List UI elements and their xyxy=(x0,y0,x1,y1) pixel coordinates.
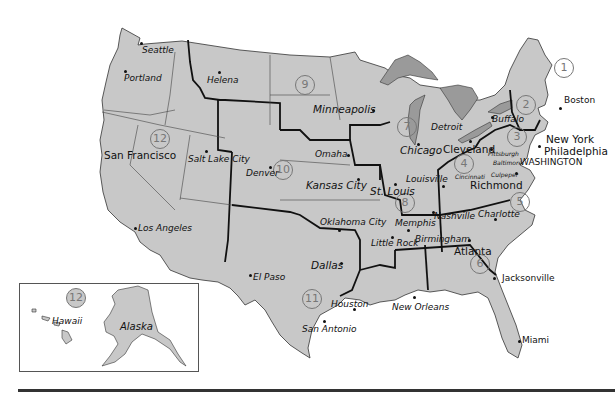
label-detroit: Detroit xyxy=(431,123,462,132)
city-dot xyxy=(538,145,541,148)
label-helena: Helena xyxy=(207,76,239,85)
district-12-marker: 12 xyxy=(150,129,170,149)
label-los-angeles: Los Angeles xyxy=(138,224,192,233)
label-minneapolis: Minneapolis xyxy=(313,104,376,115)
label-boston: Boston xyxy=(564,96,595,105)
district-3-marker: 3 xyxy=(507,127,527,147)
label-nashville: Nashville xyxy=(434,212,475,221)
city-dot xyxy=(218,71,221,74)
label-salt-lake-city: Salt Lake City xyxy=(188,155,250,164)
label-new-york: New York xyxy=(546,134,594,145)
district-1-marker: 1 xyxy=(554,58,574,78)
city-dot xyxy=(323,320,326,323)
label-denver: Denver xyxy=(246,169,279,178)
city-dot xyxy=(407,229,410,232)
district-9-marker: 9 xyxy=(295,75,315,95)
city-dot xyxy=(134,227,137,230)
label-hawaii: Hawaii xyxy=(52,317,82,326)
label-omaha: Omaha xyxy=(315,150,348,159)
label-kansas-city: Kansas City xyxy=(306,180,367,191)
label-washington: WASHINGTON xyxy=(520,158,582,167)
label-oklahoma-city: Oklahoma City xyxy=(320,218,386,227)
bottom-rule xyxy=(18,389,615,392)
label-el-paso: El Paso xyxy=(253,273,285,282)
label-san-francisco: San Francisco xyxy=(104,150,176,161)
label-memphis: Memphis xyxy=(395,219,436,228)
label-charlotte: Charlotte xyxy=(478,210,520,219)
district-2-marker: 2 xyxy=(516,95,536,115)
label-miami: Miami xyxy=(522,336,549,345)
label-san-antonio: San Antonio xyxy=(302,325,356,334)
district-6-marker: 6 xyxy=(470,254,490,274)
label-alaska: Alaska xyxy=(120,322,153,332)
label-richmond: Richmond xyxy=(470,180,523,191)
label-little-rock: Little Rock xyxy=(371,239,418,248)
city-dot xyxy=(493,277,496,280)
city-dot xyxy=(559,107,562,110)
label-st-louis: St. Louis xyxy=(370,186,415,197)
label-chicago: Chicago xyxy=(400,145,442,156)
label-seattle: Seattle xyxy=(142,46,174,55)
label-baltimore: Baltimore xyxy=(493,160,522,166)
hawaii-islands xyxy=(32,309,72,344)
label-houston: Houston xyxy=(331,300,368,309)
city-dot xyxy=(249,274,252,277)
district-12-marker-inset: 12 xyxy=(66,288,86,308)
city-dot xyxy=(205,150,208,153)
label-buffalo: Buffalo xyxy=(492,115,524,124)
label-louisville: Louisville xyxy=(406,175,448,184)
city-dot xyxy=(413,296,416,299)
city-dot xyxy=(518,340,521,343)
district-11-marker: 11 xyxy=(302,289,322,309)
label-culpeper: Culpeper xyxy=(491,172,518,178)
label-atlanta: Atlanta xyxy=(454,246,492,257)
label-dallas: Dallas xyxy=(311,260,343,271)
district-4-marker: 4 xyxy=(454,154,474,174)
label-philadelphia: Philadelphia xyxy=(544,146,608,157)
label-portland: Portland xyxy=(124,74,162,83)
label-birmingham: Birmingham xyxy=(415,235,470,244)
city-dot xyxy=(338,229,341,232)
label-pittsburgh: Pittsburgh xyxy=(488,151,519,157)
district-7-marker: 7 xyxy=(397,117,417,137)
label-jacksonville: Jacksonville xyxy=(502,274,555,283)
label-new-orleans: New Orleans xyxy=(392,303,449,312)
city-dot xyxy=(442,185,445,188)
alaska-hawaii-inset: 12 Hawaii Alaska xyxy=(19,283,199,372)
federal-reserve-map: 12 Hawaii Alaska 1 1 2 3 4 5 6 7 8 9 10 … xyxy=(0,0,615,395)
